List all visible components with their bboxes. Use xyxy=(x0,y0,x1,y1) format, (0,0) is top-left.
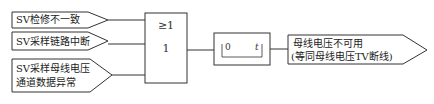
or-gate-inner-label: 1 xyxy=(145,42,187,55)
or-gate-symbol: ≥1 xyxy=(145,19,187,32)
input-3-label-line1: SV采样母线电压 xyxy=(16,62,90,75)
timer-start-label: 0 xyxy=(225,42,231,52)
output-label-line2: (等同母线电压TV断线) xyxy=(291,50,393,63)
output-label-line1: 母线电压不可用 xyxy=(293,37,363,50)
input-2-label: SV采样链路中断 xyxy=(16,35,90,48)
timer-end-label: t xyxy=(255,42,259,52)
input-3-label-line2: 通道数据异常 xyxy=(16,76,76,89)
input-1-label: SV检修不一致 xyxy=(16,13,80,26)
